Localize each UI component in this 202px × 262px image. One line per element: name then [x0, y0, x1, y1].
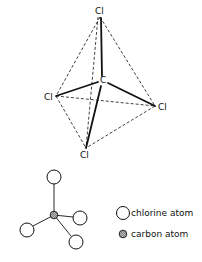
edge-right-bottom — [86, 106, 155, 148]
legend: chlorine atom carbon atom — [117, 207, 194, 240]
label-cl-left: Cl — [44, 92, 53, 102]
edge-left-bottom — [56, 96, 86, 148]
chlorine-atom-left — [20, 223, 34, 237]
chlorine-atom-bottom-right — [69, 235, 83, 249]
bond-top — [101, 18, 102, 76]
label-cl-bottom: Cl — [80, 150, 89, 160]
label-cl-top: Cl — [95, 6, 104, 16]
legend-carbon-label: carbon atom — [131, 229, 188, 239]
chlorine-atom-right — [73, 211, 87, 225]
diagram-canvas: Cl Cl Cl Cl C chlorine atom carbon atom — [0, 0, 202, 262]
ball-stick-model — [20, 170, 87, 249]
bond-bottom — [86, 86, 101, 148]
legend-chlorine-label: chlorine atom — [131, 208, 193, 218]
edge-left-right — [56, 96, 155, 106]
legend-carbon-icon — [119, 230, 127, 238]
legend-chlorine-icon — [117, 207, 130, 220]
chlorine-atom-top — [47, 170, 61, 184]
carbon-atom — [50, 211, 58, 219]
label-c-center: C — [100, 75, 106, 85]
tetrahedron-diagram: Cl Cl Cl Cl C chlorine atom carbon atom — [0, 0, 202, 262]
label-cl-right: Cl — [158, 102, 167, 112]
